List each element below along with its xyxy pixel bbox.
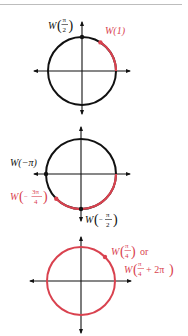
svg-text:4: 4 [34,198,38,206]
svg-text:−: − [24,193,28,201]
label-w-neg-pi: W(−π) [10,157,37,169]
point-pi-over-2 [80,35,84,39]
label-w-neg-pi-over-2: W ( − π 2 ) [85,211,118,229]
arc-neg-3pi-over-4 [56,174,116,209]
label-w-1: W(1) [105,25,126,37]
svg-text:): ) [169,262,174,278]
label-w-pi-over-2: W ( π 2 ) [48,16,74,34]
unit-circle-diagrams: W ( π 2 ) W(1) W(−π) W ( − 3π 4 ) W [0,0,188,336]
svg-text:4: 4 [138,270,142,278]
svg-text:π: π [125,242,129,250]
svg-text:−: − [99,216,103,224]
svg-text:or: or [140,246,149,257]
point-neg-pi [44,172,48,176]
figure-3: W ( π 4 ) or W ( π 4 + 2π ) [30,237,174,333]
label-w-neg-3pi-over-4: W ( − 3π 4 ) [10,188,48,206]
label-w-pi-over-4-or: W ( π 4 ) or [111,242,149,260]
svg-text:(: ( [57,18,62,34]
point-neg-pi-over-2 [79,207,83,211]
svg-text:π: π [63,16,67,24]
svg-text:+ 2π: + 2π [146,264,164,275]
arc-length-1 [100,42,116,71]
figure-1: W ( π 2 ) W(1) [34,16,130,114]
svg-text:4: 4 [125,252,129,260]
svg-text:): ) [113,212,118,228]
svg-text:2: 2 [106,221,110,229]
point-pi-over-4 [103,255,107,259]
svg-text:): ) [43,189,48,205]
svg-text:π: π [138,260,142,268]
svg-text:2: 2 [63,26,67,34]
svg-text:): ) [131,244,136,260]
figure-2: W(−π) W ( − 3π 4 ) W ( − π 2 ) [10,127,130,229]
point-neg-3pi-over-4 [54,197,58,201]
svg-text:π: π [106,211,110,219]
svg-text:3π: 3π [32,188,40,196]
label-w-pi-over-4-plus-2pi: W ( π 4 + 2π ) [124,260,174,278]
point-1 [98,40,102,44]
svg-text:): ) [69,18,74,34]
